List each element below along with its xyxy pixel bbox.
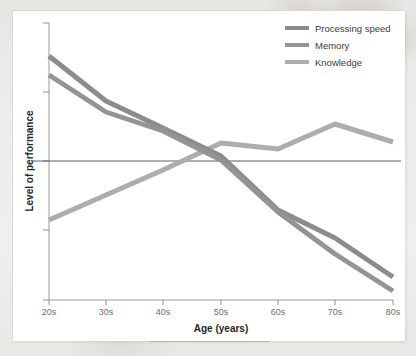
x-tick-label-60s: 60s — [271, 307, 286, 317]
chart-card: 20s 30s 40s 50s 60s 70s 80s Age (years) … — [12, 10, 404, 340]
legend-label-processing-speed: Processing speed — [315, 23, 391, 34]
x-tick-label-20s: 20s — [42, 307, 57, 317]
legend-label-knowledge: Knowledge — [315, 57, 362, 68]
x-tick-label-50s: 50s — [214, 307, 229, 317]
x-axis-title: Age (years) — [194, 323, 248, 334]
screenshot-root: 20s 30s 40s 50s 60s 70s 80s Age (years) … — [0, 0, 416, 356]
x-tick-label-70s: 70s — [328, 307, 343, 317]
x-tick-label-40s: 40s — [156, 307, 171, 317]
y-axis-title: Level of performance — [24, 110, 35, 212]
line-chart-svg: 20s 30s 40s 50s 60s 70s 80s Age (years) … — [13, 11, 405, 341]
x-tick-label-80s: 80s — [386, 307, 401, 317]
x-tick-label-30s: 30s — [99, 307, 114, 317]
legend-label-memory: Memory — [315, 40, 350, 51]
chart-figure: 20s 30s 40s 50s 60s 70s 80s Age (years) … — [13, 11, 405, 341]
